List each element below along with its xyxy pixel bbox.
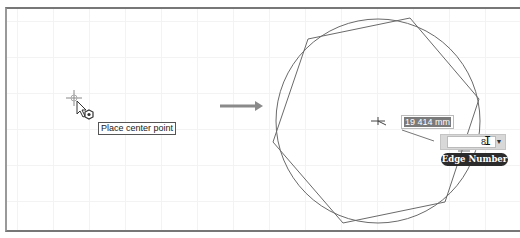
dimension-leader-line: [402, 130, 434, 141]
dropdown-arrow-icon[interactable]: ▼: [495, 137, 503, 147]
center-point-cursor-icon: [371, 117, 386, 125]
edge-number-input[interactable]: 8 I ▼: [440, 134, 506, 150]
radius-dimension-value[interactable]: 19 414 mm: [404, 117, 451, 127]
text-cursor-icon: I: [484, 134, 491, 148]
polygon-tool-icon: [85, 110, 93, 119]
edge-number-tooltip: Edge Number: [441, 153, 508, 166]
place-center-point-tooltip: Place center point: [98, 122, 176, 135]
radius-dimension-label[interactable]: 19 414 mm: [401, 115, 454, 129]
arrow-right-icon: [220, 101, 263, 111]
